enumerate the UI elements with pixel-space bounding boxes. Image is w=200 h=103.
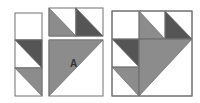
middle-pieces: A	[49, 8, 103, 96]
piece-label-a: A	[70, 58, 77, 69]
assembled-block	[112, 11, 192, 96]
quilt-block-diagram: A	[0, 0, 200, 103]
square-piece	[15, 13, 42, 40]
left-strip-pieces	[15, 13, 42, 96]
